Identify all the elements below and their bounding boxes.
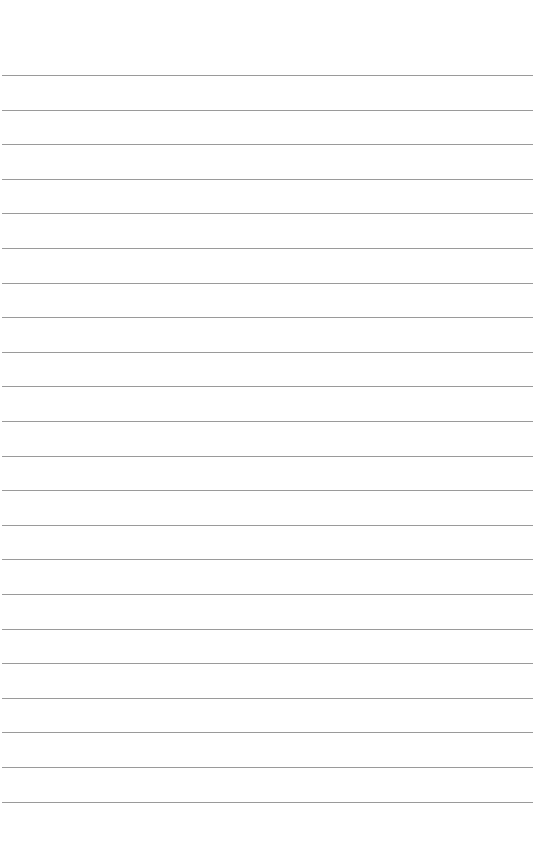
ruled-line (2, 352, 533, 353)
ruled-line (2, 213, 533, 214)
ruled-line (2, 144, 533, 145)
ruled-line (2, 248, 533, 249)
ruled-line (2, 732, 533, 733)
ruled-line (2, 594, 533, 595)
ruled-line (2, 629, 533, 630)
ruled-line (2, 698, 533, 699)
ruled-line (2, 663, 533, 664)
ruled-line (2, 525, 533, 526)
ruled-line (2, 386, 533, 387)
ruled-line (2, 317, 533, 318)
ruled-line (2, 559, 533, 560)
ruled-line (2, 110, 533, 111)
ruled-line (2, 456, 533, 457)
ruled-line (2, 490, 533, 491)
ruled-line (2, 767, 533, 768)
ruled-line (2, 283, 533, 284)
ruled-line (2, 75, 533, 76)
ruled-line (2, 802, 533, 803)
ruled-line (2, 421, 533, 422)
ruled-line (2, 179, 533, 180)
lined-paper-page (0, 0, 535, 867)
